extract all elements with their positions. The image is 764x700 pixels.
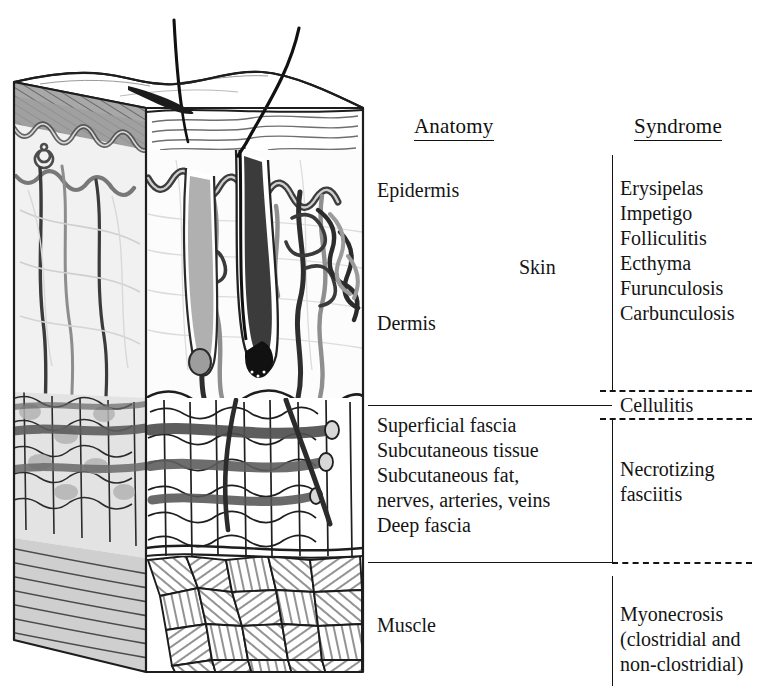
- muscle-layer: [146, 556, 363, 674]
- front-cut-face: [146, 108, 363, 674]
- column-header-anatomy-text: Anatomy: [414, 114, 494, 141]
- column-header-syndrome-text: Syndrome: [634, 114, 722, 141]
- rule-fascia-bottom: [368, 562, 612, 563]
- anatomy-label-dermis: Dermis: [377, 311, 436, 336]
- column-header-anatomy: Anatomy: [414, 114, 494, 141]
- anatomy-label-fascia-group: Superficial fascia Subcutaneous tissue S…: [377, 413, 550, 538]
- subcutaneous-fat-layer: [146, 398, 363, 558]
- left-subcutaneous-fat: [0, 385, 160, 565]
- left-cut-face: [0, 82, 160, 420]
- anatomy-label-muscle: Muscle: [377, 613, 436, 638]
- rule-fascia-top: [368, 405, 612, 406]
- skin-anatomy-illustration: [0, 0, 380, 700]
- column-header-syndrome: Syndrome: [634, 114, 722, 141]
- divider-necrotizing-fasciitis: [612, 418, 613, 562]
- dashed-rule-cellulitis-top: [600, 390, 752, 392]
- dermis-layer: [146, 150, 363, 402]
- syndrome-label-myonecrosis: Myonecrosis (clostridial and non-clostri…: [620, 602, 743, 677]
- divider-skin-syndromes: [612, 155, 613, 390]
- syndrome-label-necrotizing-fasciitis: Necrotizing fasciitis: [620, 457, 714, 507]
- anatomy-label-epidermis: Epidermis: [377, 178, 459, 203]
- dashed-rule-necrotizing-bottom: [612, 562, 752, 564]
- syndrome-label-cellulitis: Cellulitis: [620, 393, 693, 418]
- group-label-skin: Skin: [519, 256, 556, 279]
- dashed-rule-cellulitis-bottom: [600, 418, 752, 420]
- divider-myonecrosis: [612, 576, 613, 686]
- syndrome-list-skin: Erysipelas Impetigo Folliculitis Ecthyma…: [620, 176, 734, 326]
- figure-canvas: Anatomy Syndrome Epidermis Dermis Superf…: [0, 0, 764, 700]
